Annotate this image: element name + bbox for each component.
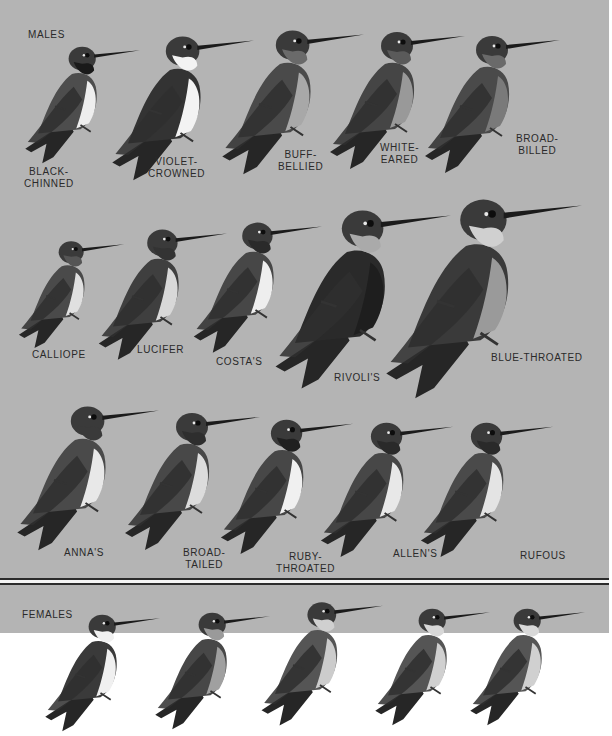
species-label: BROAD- BILLED xyxy=(516,133,559,157)
species-label: BLUE-THROATED xyxy=(491,352,583,364)
species-label: ANNA'S xyxy=(64,547,104,559)
species-label: BLACK- CHINNED xyxy=(24,166,74,190)
species-label: RUBY- THROATED xyxy=(276,551,335,575)
species-label: ALLEN'S xyxy=(393,548,437,560)
hummingbird-illustration xyxy=(379,188,611,406)
species-label: BUFF- BELLIED xyxy=(278,149,323,173)
species-label: BROAD- TAILED xyxy=(183,547,226,571)
species-label: RUFOUS xyxy=(520,550,566,562)
hummingbird-illustration xyxy=(416,415,573,562)
species-label: CALLIOPE xyxy=(32,349,86,361)
species-label: VIOLET- CROWNED xyxy=(148,156,205,180)
hummingbird-illustration xyxy=(466,602,602,730)
species-label: COSTA'S xyxy=(216,356,263,368)
species-label: LUCIFER xyxy=(137,344,184,356)
species-label: RIVOLI'S xyxy=(334,372,380,384)
section-label-males: MALES xyxy=(28,29,65,40)
hummingbird-plate: MALES FEMALES BLACK- CHINNEDVIOLET- CROW… xyxy=(0,0,609,633)
section-divider-bottom xyxy=(0,583,609,585)
species-label: WHITE- EARED xyxy=(380,142,419,166)
